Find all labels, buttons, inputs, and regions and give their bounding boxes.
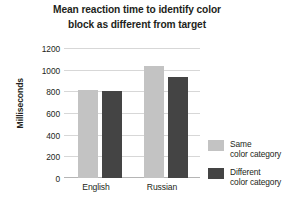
y-tick-label-800: 800 bbox=[26, 87, 60, 97]
x-tick-label-english: English bbox=[66, 182, 126, 192]
y-tick-label-400: 400 bbox=[26, 131, 60, 141]
y-tick-label-1000: 1000 bbox=[26, 66, 60, 76]
y-axis-title: Milliseconds bbox=[15, 78, 29, 128]
gridline-1200 bbox=[64, 48, 200, 49]
legend-label-same: Same color category bbox=[230, 139, 281, 160]
legend-label-same-line-1: Same bbox=[230, 139, 281, 149]
bar-russian-same bbox=[144, 66, 164, 178]
legend-swatch-different-icon bbox=[208, 168, 224, 179]
x-tick-label-russian: Russian bbox=[132, 182, 192, 192]
y-tick-label-600: 600 bbox=[26, 109, 60, 119]
chart-title-line-1: Mean reaction time to identify color bbox=[22, 3, 252, 18]
legend-item-different: Different color category bbox=[208, 167, 304, 188]
chart-title: Mean reaction time to identify color blo… bbox=[22, 3, 252, 32]
bar-russian-different bbox=[168, 77, 188, 178]
y-tick-label-200: 200 bbox=[26, 152, 60, 162]
bar-english-same bbox=[78, 90, 98, 178]
legend-swatch-same-icon bbox=[208, 140, 224, 151]
bar-chart-figure: Mean reaction time to identify color blo… bbox=[0, 0, 306, 222]
legend-label-different: Different color category bbox=[230, 167, 281, 188]
legend-label-same-line-2: color category bbox=[230, 149, 281, 159]
legend-item-same: Same color category bbox=[208, 139, 304, 160]
chart-title-line-2: block as different from target bbox=[22, 18, 252, 33]
bar-english-different bbox=[102, 91, 122, 178]
y-tick-label-1200: 1200 bbox=[26, 44, 60, 54]
legend-label-different-line-2: color category bbox=[230, 177, 281, 187]
legend-label-different-line-1: Different bbox=[230, 167, 281, 177]
chart-legend: Same color category Different color cate… bbox=[208, 139, 304, 195]
gridline-1000 bbox=[64, 70, 200, 71]
plot-area bbox=[64, 48, 200, 178]
y-tick-label-0: 0 bbox=[26, 174, 60, 184]
